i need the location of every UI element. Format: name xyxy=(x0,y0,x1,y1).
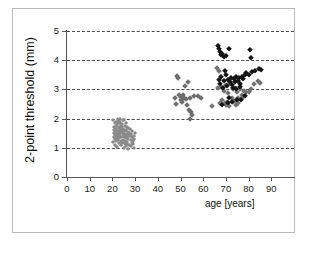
x-tick-label-0: 0 xyxy=(57,183,77,194)
data-point xyxy=(198,95,204,101)
y-tick-5 xyxy=(62,31,67,32)
data-point xyxy=(257,80,263,86)
data-point xyxy=(175,75,181,81)
x-axis-label: age [years] xyxy=(205,198,254,209)
y-tick-label-3: 3 xyxy=(44,84,59,94)
x-tick-label-60: 60 xyxy=(193,183,213,194)
data-point xyxy=(173,101,179,107)
gridline-y-1 xyxy=(67,148,294,149)
y-tick-label-2: 2 xyxy=(44,114,59,124)
x-tick-label-80: 80 xyxy=(239,183,259,194)
x-tick-label-40: 40 xyxy=(148,183,168,194)
gridline-y-5 xyxy=(67,31,294,32)
data-point xyxy=(132,137,136,141)
data-point xyxy=(131,146,135,150)
y-tick-3 xyxy=(62,89,67,90)
x-tick-60 xyxy=(203,177,204,181)
data-point xyxy=(258,67,264,73)
data-point xyxy=(209,103,215,109)
x-tick-30 xyxy=(135,177,136,181)
y-tick-label-0: 0 xyxy=(44,172,59,182)
x-tick-10 xyxy=(90,177,91,181)
y-tick-4 xyxy=(62,60,67,61)
data-point xyxy=(126,147,130,151)
x-tick-90 xyxy=(271,177,272,181)
x-tick-70 xyxy=(226,177,227,181)
x-tick-50 xyxy=(181,177,182,181)
y-tick-label-1: 1 xyxy=(44,143,59,153)
x-tick-label-30: 30 xyxy=(125,183,145,194)
data-point xyxy=(189,112,195,118)
x-tick-label-90: 90 xyxy=(261,183,281,194)
x-tick-label-50: 50 xyxy=(171,183,191,194)
x-tick-40 xyxy=(158,177,159,181)
x-tick-label-70: 70 xyxy=(216,183,236,194)
x-tick-label-20: 20 xyxy=(102,183,122,194)
y-axis-label: 2-point threshold (mm) xyxy=(23,10,37,190)
data-point xyxy=(226,45,232,51)
y-tick-1 xyxy=(62,148,67,149)
x-tick-0 xyxy=(67,177,68,181)
gridline-y-3 xyxy=(67,89,294,90)
plot-area xyxy=(67,31,294,177)
y-axis-spine xyxy=(66,30,67,178)
gridline-y-2 xyxy=(67,119,294,120)
gridline-y-4 xyxy=(67,60,294,61)
x-tick-80 xyxy=(249,177,250,181)
y-tick-2 xyxy=(62,119,67,120)
figure-container: 2-point threshold (mm) age [years] 01234… xyxy=(0,0,312,255)
y-tick-label-5: 5 xyxy=(44,26,59,36)
y-tick-label-4: 4 xyxy=(44,55,59,65)
x-tick-label-10: 10 xyxy=(80,183,100,194)
x-tick-20 xyxy=(112,177,113,181)
data-point xyxy=(247,47,253,53)
